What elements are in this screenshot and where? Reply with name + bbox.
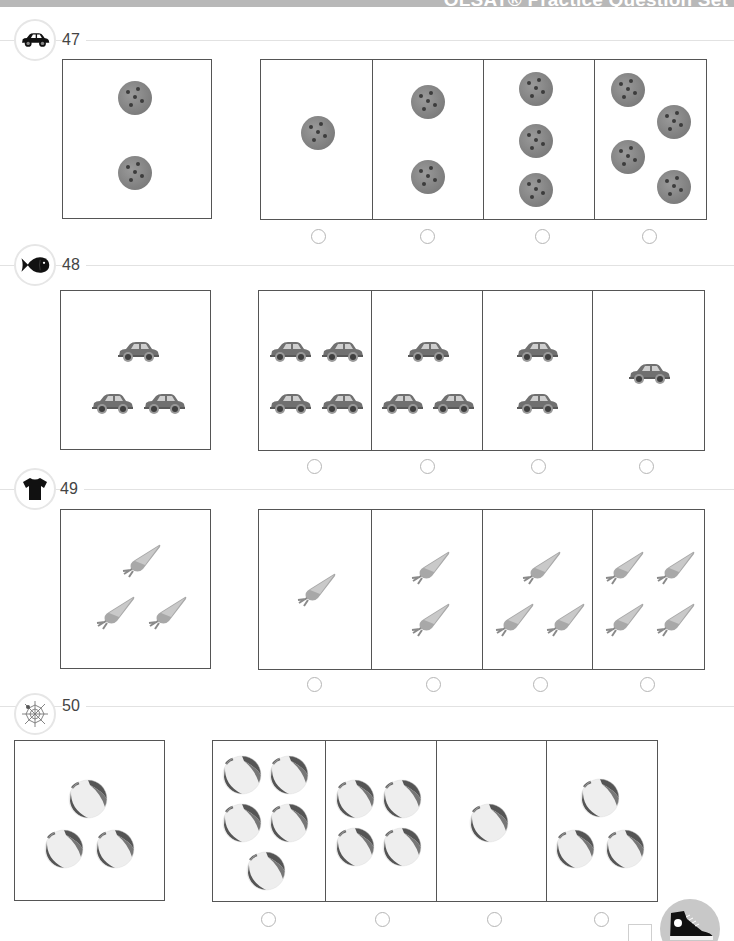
beach-ball-icon: [246, 851, 286, 891]
radio-choice-c[interactable]: [533, 677, 548, 692]
question-number: 49: [60, 480, 84, 498]
choice-a[interactable]: [213, 741, 326, 901]
question-number: 50: [62, 697, 86, 715]
question-badge: [14, 19, 56, 61]
section-divider: [0, 265, 734, 266]
choice-a[interactable]: [259, 510, 372, 669]
choice-c[interactable]: [483, 291, 594, 450]
radio-choice-d[interactable]: [594, 912, 609, 927]
radio-choice-d[interactable]: [642, 229, 657, 244]
cookie-icon: [657, 105, 691, 139]
beach-ball-icon: [95, 829, 135, 869]
reference-box: [62, 59, 212, 219]
car-icon: [20, 31, 50, 49]
carrot-icon: [492, 602, 536, 638]
beach-ball-icon: [44, 829, 84, 869]
answer-choices: [260, 59, 707, 220]
car-icon: [268, 393, 312, 415]
choice-a[interactable]: [259, 291, 372, 450]
beach-ball-icon: [382, 827, 422, 867]
beach-ball-icon: [555, 829, 595, 869]
beach-ball-icon: [469, 803, 509, 843]
carrot-icon: [543, 602, 587, 638]
cookie-icon: [519, 124, 553, 158]
car-icon: [268, 341, 312, 363]
radio-choice-a[interactable]: [311, 229, 326, 244]
carrot-icon: [519, 550, 563, 586]
beach-ball-icon: [605, 829, 645, 869]
radio-choice-d[interactable]: [640, 677, 655, 692]
question-badge: [14, 244, 56, 286]
radio-choice-a[interactable]: [261, 912, 276, 927]
beach-ball-icon: [269, 755, 309, 795]
car-icon: [142, 393, 186, 415]
cookie-icon: [611, 140, 645, 174]
beach-ball-icon: [68, 779, 108, 819]
section-divider: [0, 40, 734, 41]
carrot-icon: [119, 543, 163, 579]
cookie-icon: [301, 116, 335, 150]
carrot-icon: [93, 595, 137, 631]
choice-d[interactable]: [593, 291, 704, 450]
question-number: 48: [62, 256, 86, 274]
choice-b[interactable]: [326, 741, 438, 901]
carrot-icon: [145, 595, 189, 631]
choice-c[interactable]: [483, 510, 594, 669]
beach-ball-icon: [222, 803, 262, 843]
radio-choice-c[interactable]: [535, 229, 550, 244]
answer-choices: [258, 509, 705, 670]
car-icon: [90, 393, 134, 415]
cookie-icon: [611, 73, 645, 107]
reference-box: [60, 290, 211, 450]
answer-choices: [258, 290, 705, 451]
choice-c[interactable]: [437, 741, 547, 901]
section-divider: [0, 489, 734, 490]
radio-choice-c[interactable]: [487, 912, 502, 927]
sneaker-badge: [660, 899, 720, 941]
cookie-icon: [411, 160, 445, 194]
choice-d[interactable]: [547, 741, 658, 901]
radio-choice-c[interactable]: [531, 459, 546, 474]
car-icon: [627, 363, 671, 385]
choice-c[interactable]: [484, 60, 595, 219]
beach-ball-icon: [269, 803, 309, 843]
choice-b[interactable]: [372, 291, 483, 450]
choice-d[interactable]: [593, 510, 704, 669]
carrot-icon: [602, 550, 646, 586]
cookie-icon: [411, 85, 445, 119]
car-icon: [406, 341, 450, 363]
cookie-icon: [519, 72, 553, 106]
cookie-icon: [657, 170, 691, 204]
radio-choice-a[interactable]: [307, 459, 322, 474]
spiderweb-icon: [21, 700, 49, 728]
reference-box: [60, 509, 211, 669]
radio-choice-d[interactable]: [639, 459, 654, 474]
beach-ball-icon: [335, 827, 375, 867]
cookie-icon: [519, 173, 553, 207]
tshirt-icon: [22, 477, 48, 501]
choice-a[interactable]: [261, 60, 373, 219]
car-icon: [515, 341, 559, 363]
radio-choice-b[interactable]: [375, 912, 390, 927]
beach-ball-icon: [382, 779, 422, 819]
cookie-icon: [118, 81, 152, 115]
choice-d[interactable]: [595, 60, 706, 219]
fish-icon: [20, 255, 50, 275]
carrot-icon: [408, 602, 452, 638]
choice-b[interactable]: [372, 510, 483, 669]
choice-b[interactable]: [373, 60, 484, 219]
beach-ball-icon: [335, 779, 375, 819]
question-badge: [14, 693, 56, 735]
radio-choice-a[interactable]: [307, 677, 322, 692]
carrot-icon: [602, 602, 646, 638]
answer-choices: [212, 740, 658, 902]
reference-box: [14, 740, 165, 901]
sneaker-icon: [668, 909, 714, 941]
radio-choice-b[interactable]: [420, 459, 435, 474]
cookie-icon: [118, 156, 152, 190]
radio-choice-b[interactable]: [420, 229, 435, 244]
header-bar: OLSAT® Practice Question Set: [0, 0, 734, 7]
page-corner-box: [628, 924, 652, 941]
question-badge: [14, 468, 56, 510]
radio-choice-b[interactable]: [426, 677, 441, 692]
